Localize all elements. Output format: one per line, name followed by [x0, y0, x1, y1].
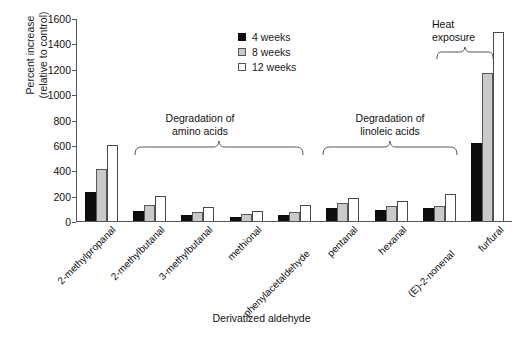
bar: [434, 206, 445, 221]
y-tick-mark: [72, 70, 76, 71]
bar: [493, 32, 504, 221]
bar: [155, 196, 166, 221]
bar: [289, 212, 300, 221]
annotation-linoleic-acids: Degradation of linoleic acids: [330, 112, 450, 137]
bar-group: [77, 19, 125, 221]
y-axis-title-line1: Percent increase: [24, 16, 37, 95]
brace-icon-heat-exposure: [436, 46, 494, 60]
bar: [423, 208, 434, 221]
annotation-linoleic-acids-line2: linoleic acids: [330, 125, 450, 138]
annotation-amino-acids: Degradation of amino acids: [140, 112, 260, 137]
bar: [337, 203, 348, 221]
annotation-amino-acids-line1: Degradation of: [140, 112, 260, 125]
bar: [348, 198, 359, 221]
y-tick-label: 400: [53, 165, 71, 177]
legend-item-12-weeks: 12 weeks: [238, 60, 296, 73]
bar: [144, 205, 155, 221]
bar: [278, 215, 289, 221]
y-tick-mark: [72, 146, 76, 147]
bar: [386, 206, 397, 221]
bar: [192, 212, 203, 221]
legend-label-12-weeks: 12 weeks: [252, 61, 296, 73]
y-tick-mark: [72, 222, 76, 223]
y-tick-mark: [72, 197, 76, 198]
x-tick-label: pentanal: [325, 224, 360, 259]
x-tick-label: phenylacetaldehyde: [241, 248, 312, 319]
legend-label-8-weeks: 8 weeks: [252, 46, 291, 58]
bar: [326, 208, 337, 221]
bar: [181, 215, 192, 221]
legend-label-4-weeks: 4 weeks: [252, 31, 291, 43]
y-tick-mark: [72, 171, 76, 172]
y-tick-mark: [72, 121, 76, 122]
y-tick-label: 1200: [48, 64, 71, 76]
y-tick-label: 1400: [48, 38, 71, 50]
x-axis-line: [76, 221, 512, 222]
legend-swatch-icon-4-weeks: [238, 33, 246, 41]
x-axis-tick-labels: 2-methylpropanal2-methylbutanal3-methylb…: [76, 224, 512, 304]
bar: [397, 201, 408, 221]
annotation-heat-exposure-line2: exposure: [432, 31, 492, 44]
bar: [107, 145, 118, 221]
bar: [96, 169, 107, 221]
legend-swatch-icon-12-weeks: [238, 63, 246, 71]
y-tick-label: 600: [53, 140, 71, 152]
y-tick-mark: [72, 95, 76, 96]
annotation-linoleic-acids-line1: Degradation of: [330, 112, 450, 125]
bar: [203, 207, 214, 221]
annotation-amino-acids-line2: amino acids: [140, 125, 260, 138]
x-tick-label: (E)-2-nonenal: [406, 248, 457, 299]
legend-item-4-weeks: 4 weeks: [238, 30, 296, 43]
bar: [230, 217, 241, 221]
x-axis-title: Derivatized aldehyde: [0, 312, 523, 324]
x-tick-label: methional: [225, 224, 263, 262]
x-tick-label: hexanal: [376, 224, 409, 257]
annotation-heat-exposure: Heat exposure: [432, 18, 492, 43]
y-tick-mark: [72, 44, 76, 45]
legend: 4 weeks 8 weeks 12 weeks: [238, 30, 296, 73]
y-tick-label: 200: [53, 191, 71, 203]
x-tick-label: 2-methylpropanal: [56, 224, 118, 286]
y-tick-label: 1600: [48, 13, 71, 25]
legend-item-8-weeks: 8 weeks: [238, 45, 296, 58]
brace-icon-linoleic-acids: [322, 140, 458, 156]
bar: [375, 210, 386, 221]
legend-swatch-icon-8-weeks: [238, 48, 246, 56]
brace-icon-amino-acids: [134, 140, 304, 156]
bar: [241, 214, 252, 221]
bar: [133, 211, 144, 221]
bar: [85, 192, 96, 221]
bar: [252, 211, 263, 221]
y-tick-label: 800: [53, 115, 71, 127]
bar: [300, 205, 311, 221]
y-tick-label: 0: [65, 216, 71, 228]
y-tick-label: 1000: [48, 89, 71, 101]
annotation-heat-exposure-line1: Heat: [432, 18, 492, 31]
bar-chart-figure: Percent increase (relative to control) 1…: [0, 0, 523, 337]
x-tick-label: furfural: [476, 224, 506, 254]
bar: [445, 194, 456, 221]
bar: [471, 143, 482, 221]
bar: [482, 73, 493, 221]
y-tick-mark: [72, 19, 76, 20]
